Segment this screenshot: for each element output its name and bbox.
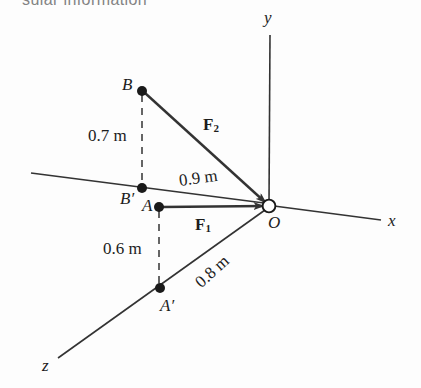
force-vector-diagram: sular information y x z — [0, 0, 421, 388]
force-f1-label: F1 — [195, 216, 211, 234]
force-f1-arrow — [162, 206, 264, 207]
force-f2-subscript: 2 — [213, 122, 219, 134]
force-f1-subscript: 1 — [205, 222, 211, 234]
dimension-0-6-label: 0.6 m — [103, 240, 142, 257]
point-a-prime-marker — [155, 283, 165, 293]
dimension-0-9-label: 0.9 m — [178, 167, 219, 189]
point-o-marker — [263, 200, 276, 213]
point-b-marker — [137, 86, 147, 96]
point-b-label: B — [122, 76, 132, 93]
force-f2-label: F2 — [203, 116, 219, 134]
dimension-0-7-label: 0.7 m — [88, 127, 127, 144]
point-o-label: O — [268, 214, 280, 231]
x-axis-label: x — [388, 212, 396, 229]
z-axis-label: z — [42, 357, 49, 374]
point-a-marker — [154, 202, 164, 212]
point-a-prime-label: A′ — [160, 297, 174, 314]
diagram-canvas — [0, 0, 421, 388]
point-b-prime-marker — [137, 183, 147, 193]
y-axis-line — [269, 35, 270, 203]
force-f1-base: F — [195, 215, 205, 234]
y-axis-label: y — [264, 9, 272, 26]
force-f2-base: F — [203, 115, 213, 134]
point-a-label: A — [142, 197, 152, 214]
x-axis-line — [274, 206, 381, 220]
point-b-prime-label: B′ — [120, 190, 134, 207]
